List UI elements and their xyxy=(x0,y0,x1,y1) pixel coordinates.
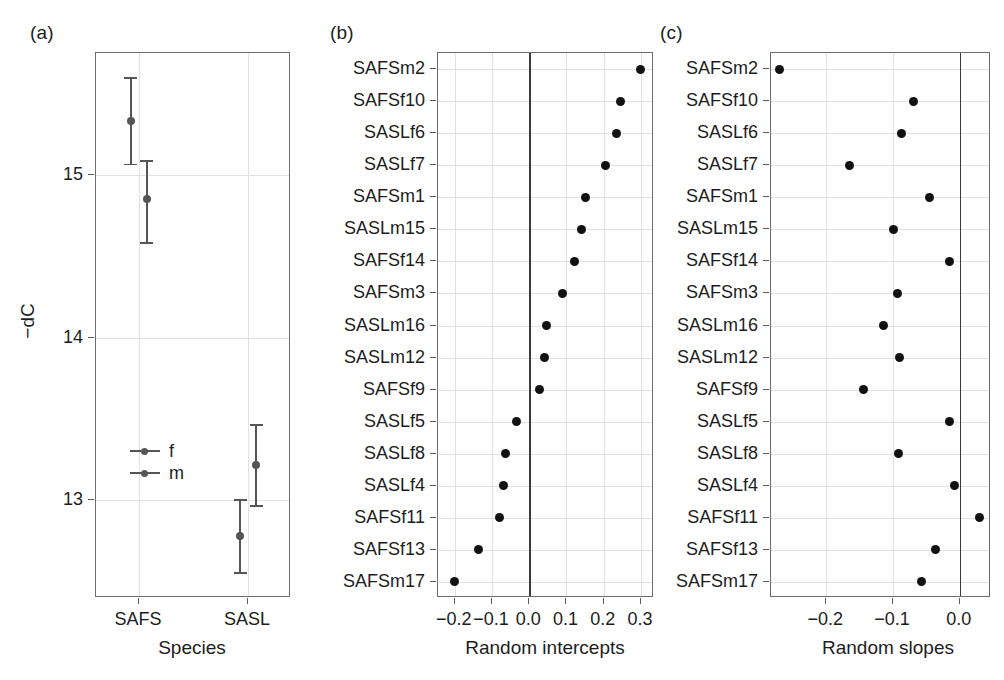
x-category-label: SASL xyxy=(224,609,270,630)
category-label: SASLf4 xyxy=(364,474,425,495)
gridline-horizontal xyxy=(438,197,652,198)
data-point xyxy=(535,385,544,394)
data-point xyxy=(975,513,984,522)
data-point xyxy=(917,577,926,586)
data-point xyxy=(931,545,940,554)
category-label: SASLf7 xyxy=(364,154,425,175)
gridline-horizontal xyxy=(438,582,652,583)
y-tick-mark xyxy=(763,228,769,229)
y-tick-mark xyxy=(763,292,769,293)
y-tick-mark xyxy=(430,100,436,101)
gridline-horizontal xyxy=(771,133,989,134)
category-label: SAFSm17 xyxy=(676,570,758,591)
data-point xyxy=(775,65,784,74)
category-label: SAFSm17 xyxy=(343,570,425,591)
data-point xyxy=(540,353,549,362)
category-label: SAFSm2 xyxy=(353,58,425,79)
category-label: SAFSf9 xyxy=(363,378,425,399)
y-tick-mark xyxy=(763,357,769,358)
y-tick-mark xyxy=(430,485,436,486)
panel-b: (b) Random intercepts SAFSm2SAFSf10SASLf… xyxy=(330,0,660,680)
data-point xyxy=(501,449,510,458)
gridline-horizontal xyxy=(438,422,652,423)
y-tick-mark xyxy=(88,174,94,175)
y-tick-mark xyxy=(763,389,769,390)
category-label: SAFSf10 xyxy=(686,90,758,111)
category-label: SAFSf14 xyxy=(686,250,758,271)
data-point xyxy=(925,193,934,202)
legend-marker-icon xyxy=(130,445,160,457)
y-tick-mark xyxy=(430,549,436,550)
category-label: SAFSf11 xyxy=(354,506,425,527)
panel-b-x-axis-title: Random intercepts xyxy=(465,637,624,659)
data-point xyxy=(950,481,959,490)
gridline-horizontal xyxy=(771,518,989,519)
category-label: SASLf8 xyxy=(364,442,425,463)
gridline-horizontal xyxy=(771,229,989,230)
data-point xyxy=(895,353,904,362)
data-point xyxy=(252,461,260,469)
gridline-vertical xyxy=(604,53,605,596)
data-point xyxy=(570,257,579,266)
y-tick-mark xyxy=(763,453,769,454)
data-point xyxy=(897,129,906,138)
category-label: SASLm15 xyxy=(344,218,425,239)
data-point xyxy=(542,321,551,330)
category-label: SASLf6 xyxy=(364,122,425,143)
data-point xyxy=(577,225,586,234)
x-tick-label: −0.2 xyxy=(808,609,844,630)
y-tick-mark xyxy=(763,100,769,101)
category-label: SAFSf11 xyxy=(687,506,758,527)
panel-a-legend: f m xyxy=(130,440,184,484)
y-tick-mark xyxy=(763,68,769,69)
data-point xyxy=(879,321,888,330)
gridline-vertical xyxy=(893,53,894,596)
y-tick-mark xyxy=(430,196,436,197)
y-tick-label: 15 xyxy=(63,164,83,185)
y-tick-label: 14 xyxy=(63,326,83,347)
y-tick-mark xyxy=(430,68,436,69)
gridline-vertical xyxy=(826,53,827,596)
y-tick-mark xyxy=(430,164,436,165)
x-tick-label: −0.1 xyxy=(473,609,509,630)
category-label: SASLm12 xyxy=(344,346,425,367)
category-label: SAFSm2 xyxy=(686,58,758,79)
category-label: SASLf8 xyxy=(697,442,758,463)
data-point xyxy=(945,417,954,426)
x-tick-mark xyxy=(892,598,893,604)
gridline-horizontal xyxy=(771,261,989,262)
category-label: SASLf5 xyxy=(697,410,758,431)
y-tick-mark xyxy=(763,485,769,486)
x-tick-mark xyxy=(138,598,139,604)
gridline-horizontal xyxy=(771,422,989,423)
gridline-horizontal xyxy=(771,454,989,455)
y-tick-mark xyxy=(88,499,94,500)
gridline-horizontal xyxy=(771,165,989,166)
data-point xyxy=(889,225,898,234)
y-tick-mark xyxy=(430,581,436,582)
panel-b-plot-area xyxy=(437,52,653,597)
data-point xyxy=(143,195,151,203)
x-tick-mark xyxy=(825,598,826,604)
gridline-horizontal xyxy=(771,101,989,102)
data-point xyxy=(616,97,625,106)
y-tick-mark xyxy=(763,581,769,582)
y-tick-mark xyxy=(430,260,436,261)
gridline-vertical xyxy=(455,53,456,596)
error-bar-cap-upper xyxy=(250,424,263,426)
y-tick-mark xyxy=(430,228,436,229)
gridline-horizontal xyxy=(771,197,989,198)
y-tick-mark xyxy=(763,549,769,550)
x-tick-mark xyxy=(528,598,529,604)
y-tick-label: 13 xyxy=(63,489,83,510)
gridline-vertical xyxy=(566,53,567,596)
category-label: SAFSf14 xyxy=(353,250,425,271)
gridline-horizontal xyxy=(771,582,989,583)
gridline-horizontal xyxy=(438,454,652,455)
data-point xyxy=(581,193,590,202)
gridline-vertical xyxy=(139,53,140,596)
error-bar-cap-lower xyxy=(140,242,153,244)
data-point xyxy=(499,481,508,490)
y-tick-mark xyxy=(763,132,769,133)
panel-c-plot-area xyxy=(770,52,990,597)
